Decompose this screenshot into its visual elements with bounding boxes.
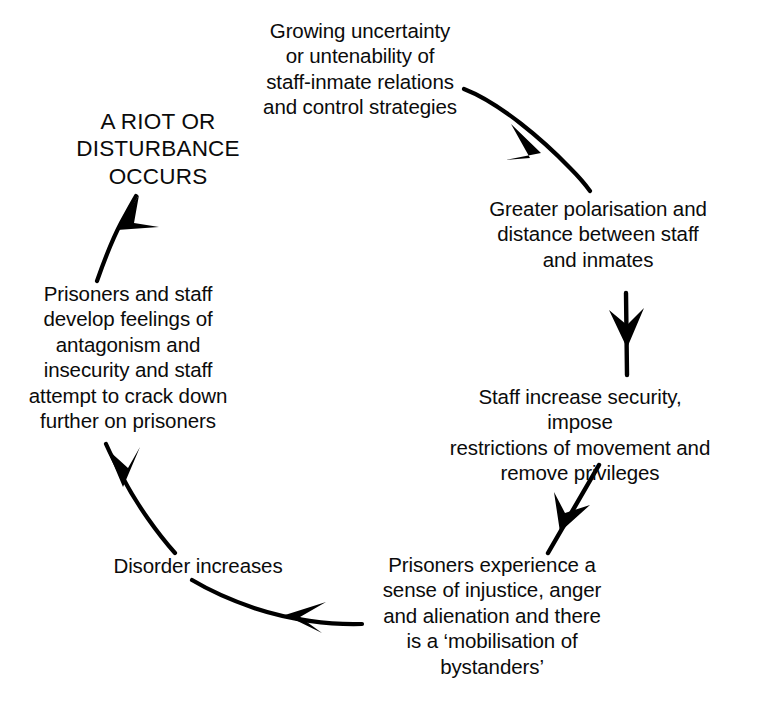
cycle-node-security: Staff increase security, impose restrict… xyxy=(446,384,714,486)
cycle-node-disorder: Disorder increases xyxy=(82,553,314,578)
cycle-node-antagonism: Prisoners and staff develop feelings of … xyxy=(14,281,242,433)
arrow-injustice-to-disorder xyxy=(192,580,362,633)
cycle-diagram: Growing uncertainty or untenability of s… xyxy=(0,0,771,708)
arrow-disorder-to-antagonism xyxy=(106,444,175,553)
cycle-node-polarisation: Greater polarisation and distance betwee… xyxy=(472,196,724,272)
cycle-node-uncertainty: Growing uncertainty or untenability of s… xyxy=(228,18,492,120)
cycle-node-injustice: Prisoners experience a sense of injustic… xyxy=(358,552,626,679)
arrow-antagonism-to-riot xyxy=(97,195,159,281)
cycle-node-riot: A RIOT OR DISTURBANCE OCCURS xyxy=(58,108,258,190)
arrow-polarisation-to-security xyxy=(609,293,644,375)
